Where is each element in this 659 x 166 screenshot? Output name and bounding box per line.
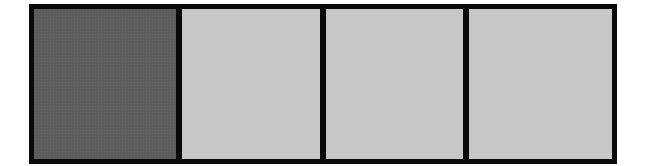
segment-empty bbox=[182, 9, 320, 159]
segmented-bar-frame bbox=[29, 4, 617, 164]
segment-filled bbox=[34, 9, 176, 159]
segment-empty bbox=[469, 9, 612, 159]
segment-empty bbox=[326, 9, 463, 159]
